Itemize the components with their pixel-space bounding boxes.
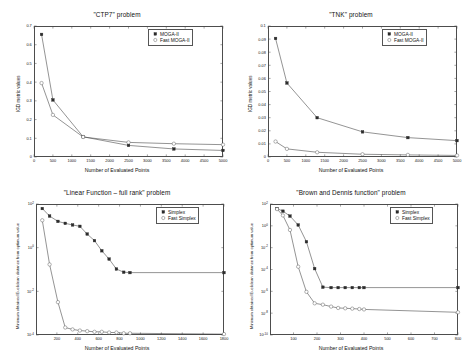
svg-text:600: 600 (408, 336, 415, 341)
legend-label: MOGA-II (394, 32, 413, 37)
svg-text:1400: 1400 (178, 336, 187, 341)
svg-text:10-10: 10-10 (259, 332, 268, 338)
svg-text:3000: 3000 (377, 158, 386, 163)
open-circle-icon (393, 215, 402, 221)
svg-text:0.01: 0.01 (258, 141, 266, 146)
svg-text:0: 0 (33, 158, 36, 163)
legend[interactable]: MOGA-II Fast MOGA-II (382, 29, 427, 46)
svg-text:400: 400 (75, 336, 82, 341)
svg-text:0.3: 0.3 (26, 98, 31, 103)
svg-text:10-2: 10-2 (27, 288, 34, 294)
svg-text:2500: 2500 (358, 158, 367, 163)
legend-label: Fast Simplex (402, 216, 430, 221)
svg-text:0: 0 (267, 158, 270, 163)
open-circle-icon (151, 37, 160, 43)
svg-text:3500: 3500 (162, 158, 171, 163)
svg-text:0.5: 0.5 (26, 61, 31, 66)
svg-text:102: 102 (262, 201, 268, 207)
svg-text:4000: 4000 (181, 158, 190, 163)
svg-text:0.7: 0.7 (26, 23, 31, 28)
svg-text:10-8: 10-8 (261, 310, 268, 316)
filled-square-icon (393, 209, 402, 215)
svg-text:100: 100 (290, 336, 297, 341)
svg-text:0.02: 0.02 (258, 128, 266, 133)
filled-square-icon (151, 31, 160, 37)
legend-label: Fast Simplex (168, 216, 196, 221)
legend-label: Fast MOGA-II (160, 38, 190, 43)
plot-canvas: 2004006008001000120014001600180010-410-2… (0, 179, 234, 358)
plot-canvas: 10020030040050060070080010-1010-810-610-… (234, 179, 468, 358)
svg-text:5000: 5000 (219, 158, 228, 163)
legend-label: Simplex (402, 210, 419, 215)
svg-text:100: 100 (262, 223, 268, 229)
svg-text:600: 600 (95, 336, 102, 341)
svg-text:0.04: 0.04 (258, 102, 266, 107)
legend-entry: Fast MOGA-II (151, 37, 190, 43)
svg-text:1000: 1000 (136, 336, 145, 341)
svg-text:500: 500 (284, 158, 291, 163)
legend-entry: Fast Simplex (159, 215, 196, 221)
svg-text:2500: 2500 (124, 158, 133, 163)
svg-text:0.1: 0.1 (26, 136, 31, 141)
legend-entry: Fast Simplex (393, 215, 430, 221)
svg-text:300: 300 (337, 336, 344, 341)
svg-text:500: 500 (384, 336, 391, 341)
legend-entry: Fast MOGA-II (385, 37, 424, 43)
svg-text:4500: 4500 (434, 158, 443, 163)
svg-text:700: 700 (431, 336, 438, 341)
svg-text:0.08: 0.08 (258, 50, 266, 55)
svg-text:0.09: 0.09 (258, 37, 266, 42)
svg-text:3000: 3000 (143, 158, 152, 163)
svg-text:1500: 1500 (320, 158, 329, 163)
svg-text:4000: 4000 (415, 158, 424, 163)
svg-text:800: 800 (455, 336, 462, 341)
svg-text:3500: 3500 (396, 158, 405, 163)
legend-label: Simplex (168, 210, 185, 215)
svg-text:0.6: 0.6 (26, 42, 31, 47)
svg-text:1000: 1000 (301, 158, 310, 163)
svg-text:0.2: 0.2 (26, 117, 31, 122)
panel-linear-full-rank: "Linear Function – full rank" problem Mi… (0, 179, 234, 358)
panel-ctp7: "CTP7" problem IGD metric values Number … (0, 0, 234, 179)
svg-text:10-4: 10-4 (27, 332, 34, 338)
svg-text:4500: 4500 (200, 158, 209, 163)
filled-square-icon (159, 209, 168, 215)
plot-canvas: 0500100015002000250030003500400045005000… (234, 0, 468, 179)
figure-grid: "CTP7" problem IGD metric values Number … (0, 0, 468, 358)
filled-square-icon (385, 31, 394, 37)
svg-text:10-4: 10-4 (261, 266, 268, 272)
svg-text:10-6: 10-6 (261, 288, 268, 294)
svg-text:500: 500 (50, 158, 57, 163)
svg-text:0.1: 0.1 (260, 23, 265, 28)
svg-text:0.4: 0.4 (26, 80, 32, 85)
legend-label: MOGA-II (160, 32, 179, 37)
svg-text:1500: 1500 (86, 158, 95, 163)
panel-brown-and-dennis: "Brown and Dennis function" problem Mini… (234, 179, 468, 358)
legend-label: Fast MOGA-II (394, 38, 424, 43)
svg-text:0.03: 0.03 (258, 115, 266, 120)
svg-text:10-2: 10-2 (261, 244, 268, 250)
svg-text:1000: 1000 (67, 158, 76, 163)
svg-text:200: 200 (314, 336, 321, 341)
svg-text:2000: 2000 (105, 158, 114, 163)
plot-canvas: 0500100015002000250030003500400045005000… (0, 0, 234, 179)
svg-text:1200: 1200 (157, 336, 166, 341)
legend[interactable]: MOGA-II Fast MOGA-II (148, 29, 193, 46)
svg-text:102: 102 (28, 201, 34, 207)
svg-text:800: 800 (116, 336, 123, 341)
panel-tnk: "TNK" problem IGD metric values Number o… (234, 0, 468, 179)
svg-text:1600: 1600 (199, 336, 208, 341)
svg-text:0.06: 0.06 (258, 76, 266, 81)
svg-text:2000: 2000 (339, 158, 348, 163)
svg-text:200: 200 (54, 336, 61, 341)
svg-text:0.05: 0.05 (258, 89, 266, 94)
open-circle-icon (385, 37, 394, 43)
svg-text:100: 100 (28, 244, 34, 250)
open-circle-icon (159, 215, 168, 221)
svg-text:1800: 1800 (220, 336, 229, 341)
svg-text:0.07: 0.07 (258, 63, 266, 68)
svg-text:5000: 5000 (453, 158, 462, 163)
legend[interactable]: Simplex Fast Simplex (390, 207, 433, 224)
legend[interactable]: Simplex Fast Simplex (156, 207, 199, 224)
svg-text:400: 400 (361, 336, 368, 341)
